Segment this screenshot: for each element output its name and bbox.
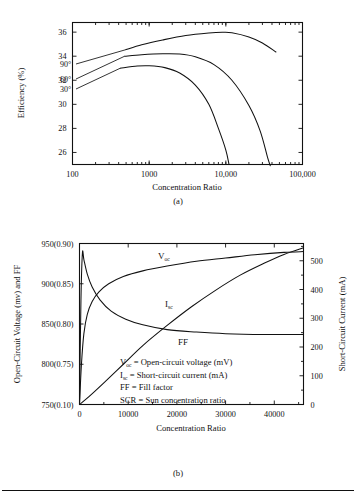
panel-a-x-tick-label: 10,000 [215,170,238,179]
panel-b-left-tick-label: 750(0.10) [41,401,73,410]
panel-b-left-tick-label: 950(0.90) [41,240,73,249]
panel-a-x-tick-label: 100 [66,170,78,179]
panel-b-annotation: Voc = Open-circuit voltage (mV) [120,357,232,368]
panel-b-left-tick-label: 800(0.75) [41,360,73,369]
panel-a-series-labels: 90°60°30° [60,50,126,94]
panel-a-y-tick-label: 28 [58,124,66,133]
footer-rule [2,490,354,491]
panel-b: 750(0.10)800(0.75)850(0.80)900(0.85)950(… [0,228,356,478]
panel-a-curves [120,32,276,166]
panel-a-svg: 262830323436 100100010,000100,000 90°60°… [0,0,356,200]
panel-a-y-tick-label: 30 [58,100,66,109]
panel-b-curve-V_oc [80,252,304,405]
panel-a-leader-line [76,68,120,89]
panel-a-x-tick-label: 1000 [141,170,157,179]
panel-b-series-label-FF: FF [178,337,188,347]
panel-a-y-ticks: 262830323436 [58,28,302,157]
panel-b-plot: 750(0.10)800(0.75)850(0.80)900(0.85)950(… [41,240,322,419]
panel-b-frame [80,244,304,405]
panel-b-x-tick-label: 0 [77,410,81,419]
panel-b-right-tick-label: 100 [311,372,323,381]
panel-b-curve-I_sc [80,248,304,405]
panel-b-svg: 750(0.10)800(0.75)850(0.80)900(0.85)950(… [0,228,356,478]
panel-b-left-tick-label: 900(0.85) [41,280,73,289]
figure-container: 262830323436 100100010,000100,000 90°60°… [0,0,356,499]
panel-b-left-tick-label: 850(0.80) [41,320,73,329]
panel-a-frame [73,23,303,165]
panel-a-curve-90deg [126,32,276,52]
panel-b-series-label-I_sc: Isc [165,299,173,310]
panel-b-curves [80,248,304,405]
panel-a-series-label: 30° [60,85,71,94]
panel-b-x-tick-label: 30000 [215,410,235,419]
panel-a: 262830323436 100100010,000100,000 90°60°… [0,0,356,200]
panel-b-right-tick-label: 200 [311,343,323,352]
panel-b-x-tick-label: 20000 [167,410,187,419]
panel-b-annotations: Voc = Open-circuit voltage (mV)Isc = Sho… [120,357,232,405]
panel-a-y-axis-title: Efficiency (%) [16,68,26,119]
panel-a-series-label: 90° [60,60,71,69]
panel-a-curve-30deg [120,66,229,165]
panel-b-right-axis-title: Short-Circuit Current (mA) [337,277,347,372]
panel-b-curve-FF [80,251,304,405]
panel-a-caption: (a) [0,196,356,206]
panel-a-x-axis-title: Concentration Ratio [152,182,221,192]
panel-a-plot: 262830323436 100100010,000100,000 90°60°… [58,23,315,179]
panel-b-right-tick-label: 0 [311,401,315,410]
panel-a-y-tick-label: 26 [58,148,66,157]
panel-a-leader-line [76,50,126,64]
panel-b-left-ticks: 750(0.10)800(0.75)850(0.80)900(0.85)950(… [41,240,83,410]
panel-b-x-tick-label: 40000 [264,410,284,419]
panel-b-left-axis-title: Open-Circuit Voltage (mv) and FF [12,265,22,384]
panel-b-x-axis-title: Concentration Ratio [156,423,225,433]
panel-b-right-tick-label: 500 [311,257,323,266]
panel-b-annotation: SCR = Sun concentration ratio [120,395,226,405]
panel-b-series-label-V_oc: Voc [158,251,170,262]
panel-b-annotation: Isc = Short-circuit current (mA) [120,370,228,381]
panel-a-leader-line [76,56,125,79]
panel-a-y-tick-label: 36 [58,28,66,37]
panel-b-caption: (b) [0,468,356,478]
panel-a-x-ticks: 100100010,000100,000 [66,23,315,179]
panel-a-x-tick-label: 100,000 [289,170,316,179]
panel-b-right-tick-label: 300 [311,314,323,323]
panel-a-series-label: 60° [60,75,71,84]
panel-a-curve-60deg [125,54,271,166]
panel-b-x-tick-label: 10000 [118,410,138,419]
panel-b-right-tick-label: 400 [311,286,323,295]
panel-b-annotation: FF = Fill factor [120,382,173,392]
